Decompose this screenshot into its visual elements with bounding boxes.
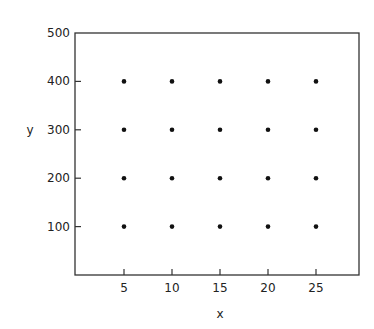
plot-frame: [75, 33, 359, 275]
y-axis-ticks: 100200300400500: [47, 26, 81, 234]
y-tick-label: 100: [47, 220, 70, 234]
data-point: [170, 128, 175, 133]
scatter-chart: 100200300400500 510152025 y x: [0, 0, 374, 329]
data-point: [218, 176, 223, 181]
data-point: [122, 79, 127, 84]
data-point: [122, 176, 127, 181]
x-axis-label: x: [216, 307, 223, 321]
data-point: [314, 224, 319, 229]
data-points: [122, 79, 319, 229]
data-point: [218, 128, 223, 133]
data-point: [122, 128, 127, 133]
data-point: [170, 224, 175, 229]
x-tick-label: 15: [212, 281, 227, 295]
x-tick-label: 10: [164, 281, 179, 295]
data-point: [218, 79, 223, 84]
data-point: [170, 79, 175, 84]
data-point: [266, 224, 271, 229]
data-point: [314, 128, 319, 133]
y-tick-label: 300: [47, 123, 70, 137]
data-point: [266, 128, 271, 133]
data-point: [122, 224, 127, 229]
data-point: [314, 79, 319, 84]
y-tick-label: 200: [47, 171, 70, 185]
data-point: [218, 224, 223, 229]
x-axis-ticks: 510152025: [120, 269, 323, 295]
x-tick-label: 5: [120, 281, 128, 295]
data-point: [314, 176, 319, 181]
y-tick-label: 500: [47, 26, 70, 40]
x-tick-label: 25: [308, 281, 323, 295]
data-point: [266, 79, 271, 84]
y-axis-label: y: [26, 123, 33, 137]
x-tick-label: 20: [260, 281, 275, 295]
data-point: [266, 176, 271, 181]
y-tick-label: 400: [47, 74, 70, 88]
data-point: [170, 176, 175, 181]
